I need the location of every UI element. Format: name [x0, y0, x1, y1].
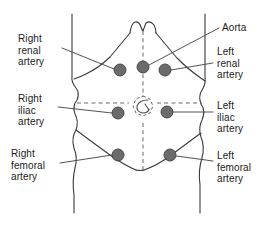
label-right-femoral-artery: Right femoral artery — [11, 148, 45, 183]
torso-outline-group — [72, 14, 205, 213]
pulse-point-left-iliac — [161, 106, 173, 118]
pubic-curve — [136, 170, 144, 171]
label-right-iliac-artery: Right iliac artery — [18, 93, 44, 128]
label-aorta: Aorta — [222, 22, 246, 34]
leader-line-aorta — [149, 28, 219, 65]
leader-line-left-femoral — [176, 156, 213, 161]
label-left-femoral-artery: Left femoral artery — [217, 150, 251, 185]
pulse-point-left-renal — [159, 64, 171, 76]
abdominal-pulse-points-diagram: Right renal artery Right iliac artery Ri… — [0, 0, 272, 225]
leader-lines-group — [58, 28, 219, 163]
pulse-point-right-femoral — [112, 149, 124, 161]
pulse-point-aorta — [137, 61, 149, 73]
label-right-renal-artery: Right renal artery — [18, 33, 44, 68]
umbilicus-inner-tick — [145, 104, 149, 110]
right-inguinal-crease — [76, 130, 136, 170]
pulse-points-group — [112, 61, 176, 161]
right-body-edge — [199, 14, 205, 213]
leader-line-right-renal — [62, 48, 114, 69]
leader-line-right-femoral — [60, 155, 112, 163]
pulse-point-left-femoral — [164, 149, 176, 161]
leader-line-left-renal — [171, 63, 213, 70]
pulse-point-right-iliac — [112, 107, 124, 119]
reference-guides-group — [77, 31, 202, 170]
label-left-renal-artery: Left renal artery — [217, 46, 243, 81]
umbilicus-icon — [133, 96, 153, 116]
left-body-edge — [72, 14, 78, 213]
pulse-point-right-renal — [114, 64, 126, 76]
label-left-iliac-artery: Left iliac artery — [217, 100, 243, 135]
leader-line-right-iliac — [58, 107, 112, 113]
